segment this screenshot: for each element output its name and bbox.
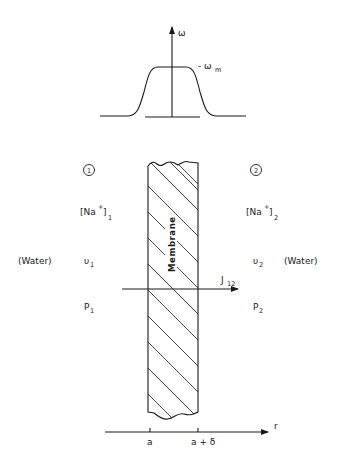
tick-label-a-plus-delta: a + δ [191, 437, 216, 447]
omega-m-subscript: m [215, 66, 221, 74]
velocity-2-sub: 2 [259, 261, 263, 269]
na-concentration-2-close: ] [269, 207, 273, 217]
omega-m-label: - ω [198, 61, 212, 71]
compartment-1-number: 1 [87, 167, 91, 175]
membrane-label: Membrane [167, 216, 177, 272]
flux-arrow: J 12 [122, 275, 238, 289]
membrane-outline [148, 161, 198, 419]
omega-axis-label: ω [178, 28, 186, 38]
membrane-diagram: ω - ω m Membrane 1 [Na + ] 1 (Wat [0, 0, 339, 464]
velocity-2: υ [253, 256, 258, 266]
velocity-1-sub: 1 [90, 261, 94, 269]
flux-label: J [220, 275, 224, 285]
pressure-1-sub: 1 [90, 307, 94, 315]
water-label-right: (Water) [284, 256, 318, 266]
r-axis: r a a + δ [105, 421, 278, 447]
compartment-2: 2 [Na + ] 2 υ 2 (Water) P 2 [246, 165, 318, 316]
water-label-left: (Water) [18, 256, 52, 266]
na-concentration-1: [Na [80, 207, 96, 217]
pressure-2-sub: 2 [259, 307, 263, 315]
na-concentration-1-sub: 1 [108, 214, 112, 222]
na-concentration-2-sub: 2 [274, 214, 278, 222]
velocity-1: υ [84, 256, 89, 266]
na-concentration-1-close: ] [103, 207, 107, 217]
flux-label-sub: 12 [227, 280, 235, 288]
omega-profile-plot: ω - ω m [100, 27, 246, 117]
tick-label-a: a [147, 437, 153, 447]
r-axis-label: r [274, 421, 278, 431]
omega-profile-curve [100, 67, 246, 116]
compartment-2-number: 2 [254, 167, 258, 175]
compartment-1: 1 [Na + ] 1 (Water) υ 1 P 1 [18, 165, 112, 316]
na-concentration-2: [Na [246, 207, 262, 217]
